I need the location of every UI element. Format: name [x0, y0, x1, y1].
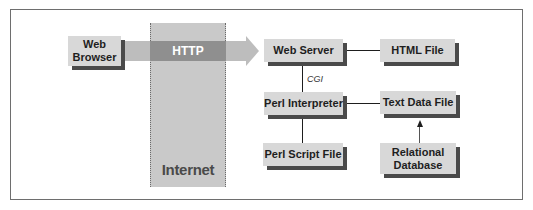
- node-web-server: Web Server: [264, 39, 343, 62]
- node-text-data-file: Text Data File: [380, 91, 456, 114]
- connector-database-textdatafile: [419, 126, 420, 143]
- http-arrow-head-icon: [246, 36, 259, 66]
- node-perl-interpreter: Perl Interpreter: [264, 92, 343, 115]
- arrow-up-icon: [417, 120, 423, 127]
- connector-perlinterpreter-textdatafile: [347, 103, 380, 104]
- internet-label: Internet: [150, 161, 226, 178]
- connector-webserver-perlinterpreter: [302, 66, 303, 92]
- connector-perlinterpreter-perlscriptfile: [302, 119, 303, 143]
- node-relational-database: Relational Database: [380, 143, 456, 174]
- node-html-file: HTML File: [380, 39, 455, 62]
- node-web-browser: Web Browser: [68, 36, 121, 66]
- cgi-label: CGI: [307, 74, 323, 84]
- node-perl-script-file: Perl Script File: [263, 143, 343, 166]
- connector-webserver-htmlfile: [347, 50, 380, 51]
- http-label: HTTP: [150, 44, 226, 58]
